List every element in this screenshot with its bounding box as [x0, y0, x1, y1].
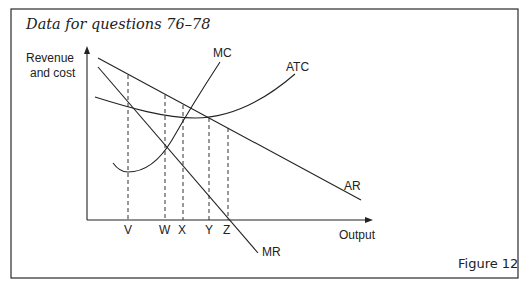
tick-label-w: W	[159, 223, 171, 237]
tick-label-y: Y	[205, 223, 213, 237]
mc-label: MC	[213, 46, 232, 60]
ar-curve	[98, 58, 361, 200]
atc-curve	[95, 74, 295, 118]
mc-curve	[113, 62, 220, 172]
tick-label-x: X	[178, 223, 186, 237]
figure-12-diagram: Data for questions 76–78 Revenue and cos…	[0, 0, 526, 304]
tick-label-z: Z	[223, 223, 230, 237]
figure-caption: Data for questions 76–78	[25, 16, 210, 32]
y-axis-label-line2: and cost	[30, 66, 76, 80]
atc-label: ATC	[286, 60, 309, 74]
tick-label-v: V	[124, 223, 132, 237]
x-axis-label: Output	[339, 228, 376, 242]
y-axis-label-line1: Revenue	[26, 51, 74, 65]
figure-number-label: Figure 12	[458, 256, 518, 271]
x-axis-arrow-icon	[365, 217, 373, 223]
axes	[84, 46, 373, 223]
y-axis-arrow-icon	[84, 46, 90, 54]
mr-label: MR	[262, 245, 281, 259]
dashed-guides	[128, 75, 228, 220]
ar-label: AR	[344, 179, 361, 193]
